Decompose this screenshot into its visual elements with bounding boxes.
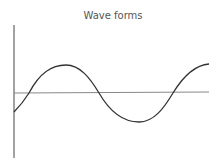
chart-plot — [0, 0, 219, 166]
baseline — [14, 92, 209, 93]
